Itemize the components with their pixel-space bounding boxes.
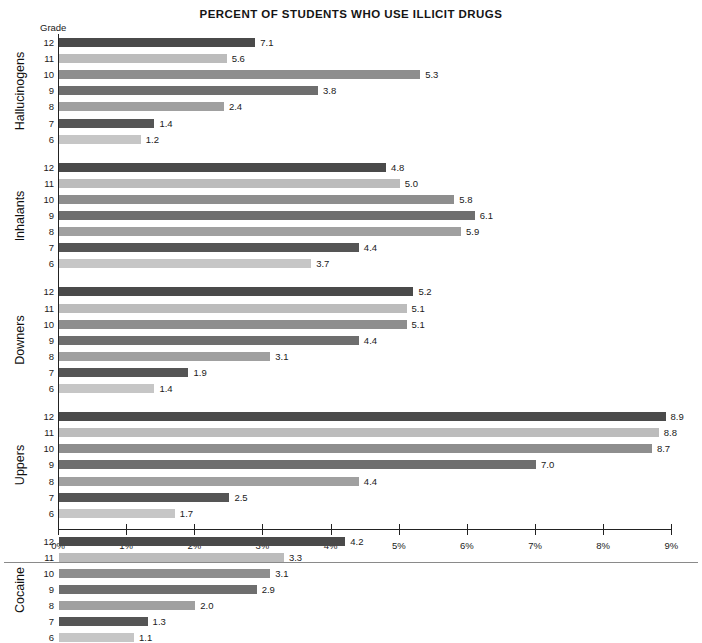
bar-value-label: 8.7 <box>657 443 670 454</box>
x-axis-tick-label: 7% <box>528 540 542 551</box>
grade-label: 7 <box>32 242 54 253</box>
bar <box>59 163 386 172</box>
bar-value-label: 2.5 <box>234 492 247 503</box>
bar <box>59 412 666 421</box>
grade-label: 8 <box>32 476 54 487</box>
grade-label: 6 <box>32 383 54 394</box>
grade-axis-header: Grade <box>40 22 66 33</box>
bar <box>59 428 659 437</box>
bar <box>59 617 148 626</box>
grade-label: 12 <box>32 411 54 422</box>
bar <box>59 86 318 95</box>
grade-label: 11 <box>32 427 54 438</box>
bar-value-label: 4.2 <box>350 536 363 547</box>
bar-value-label: 7.1 <box>260 37 273 48</box>
x-axis-tick <box>467 524 468 535</box>
bar <box>59 537 345 546</box>
bar-value-label: 2.9 <box>262 584 275 595</box>
bar-value-label: 8.9 <box>671 411 684 422</box>
grade-label: 12 <box>32 37 54 48</box>
bar <box>59 585 257 594</box>
bar-value-label: 2.4 <box>229 101 242 112</box>
bar <box>59 243 359 252</box>
grade-label: 12 <box>32 162 54 173</box>
grade-label: 10 <box>32 194 54 205</box>
bar <box>59 633 134 642</box>
grade-label: 10 <box>32 319 54 330</box>
grade-label: 6 <box>32 258 54 269</box>
grade-label: 11 <box>32 53 54 64</box>
bar <box>59 553 284 562</box>
bar <box>59 227 461 236</box>
bar-value-label: 4.4 <box>364 242 377 253</box>
grade-label: 6 <box>32 632 54 643</box>
bar-value-label: 3.1 <box>275 568 288 579</box>
bar <box>59 211 475 220</box>
x-axis-tick-label: 8% <box>596 540 610 551</box>
bar-value-label: 5.0 <box>405 178 418 189</box>
grade-label: 9 <box>32 459 54 470</box>
grade-label: 10 <box>32 443 54 454</box>
group-label-cocaine: Cocaine <box>13 567 27 613</box>
x-axis-tick <box>331 524 332 535</box>
bar-value-label: 4.8 <box>391 162 404 173</box>
grade-label: 6 <box>32 508 54 519</box>
grade-label: 9 <box>32 584 54 595</box>
bar <box>59 352 270 361</box>
bar-value-label: 5.8 <box>459 194 472 205</box>
group-label-inhalants: Inhalants <box>13 190 27 241</box>
bar <box>59 179 400 188</box>
bar <box>59 368 188 377</box>
bar-value-label: 5.2 <box>418 286 431 297</box>
grade-label: 8 <box>32 226 54 237</box>
grade-label: 7 <box>32 118 54 129</box>
bar <box>59 569 270 578</box>
bar-value-label: 4.4 <box>364 335 377 346</box>
bar-value-label: 2.0 <box>200 600 213 611</box>
grade-label: 10 <box>32 568 54 579</box>
bar-value-label: 1.4 <box>159 383 172 394</box>
grade-label: 8 <box>32 351 54 362</box>
grade-label: 8 <box>32 600 54 611</box>
x-axis-tick <box>671 524 672 535</box>
x-axis-tick <box>399 524 400 535</box>
grade-label: 9 <box>32 335 54 346</box>
bar <box>59 135 141 144</box>
bar-value-label: 5.9 <box>466 226 479 237</box>
bar <box>59 70 420 79</box>
bar <box>59 509 175 518</box>
bar-value-label: 1.4 <box>159 118 172 129</box>
grade-label: 7 <box>32 616 54 627</box>
bar <box>59 493 229 502</box>
bar <box>59 444 652 453</box>
grade-label: 12 <box>32 536 54 547</box>
grade-label: 6 <box>32 134 54 145</box>
grade-label: 7 <box>32 367 54 378</box>
group-label-downers: Downers <box>13 316 27 365</box>
bar-value-label: 7.0 <box>541 459 554 470</box>
x-axis-tick <box>58 524 59 535</box>
bar <box>59 38 255 47</box>
group-label-hallucinogens: Hallucinogens <box>13 52 27 131</box>
bar <box>59 259 311 268</box>
x-axis-line <box>58 529 672 530</box>
chart-title: Percent Of Students Who Use Illicit Drug… <box>0 8 702 20</box>
bar-value-label: 1.1 <box>139 632 152 643</box>
bar <box>59 384 154 393</box>
bar-value-label: 5.6 <box>232 53 245 64</box>
x-axis-tick-label: 5% <box>392 540 406 551</box>
bar-value-label: 1.2 <box>146 134 159 145</box>
group-label-uppers: Uppers <box>13 445 27 485</box>
bar-value-label: 4.4 <box>364 476 377 487</box>
x-axis-tick <box>194 524 195 535</box>
bar <box>59 102 224 111</box>
bar-value-label: 8.8 <box>664 427 677 438</box>
bar <box>59 601 195 610</box>
bar-value-label: 3.8 <box>323 85 336 96</box>
bar <box>59 304 407 313</box>
bar <box>59 320 407 329</box>
bar-value-label: 3.7 <box>316 258 329 269</box>
bar <box>59 336 359 345</box>
grade-label: 8 <box>32 101 54 112</box>
